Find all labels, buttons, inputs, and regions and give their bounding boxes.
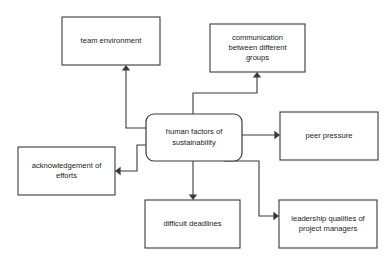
node-communication-between-different-groups[interactable]: communicationbetween differentgroups (210, 24, 305, 72)
node-label-line: team environment (81, 36, 143, 45)
arrow-head-icon-central-to-leadership-qualities (273, 212, 279, 220)
connector-central-to-team-environment (122, 65, 146, 128)
node-difficult-deadlines[interactable]: difficult deadlines (145, 200, 240, 248)
node-label-line: acknowledgement of (32, 161, 103, 170)
node-label-line: leadership qualities of (291, 214, 365, 223)
connector-central-to-acknowledgement (115, 145, 146, 175)
node-label-line: communication (232, 33, 283, 42)
node-label-central: human factors ofsustainability (166, 127, 223, 146)
node-peer-pressure[interactable]: peer pressure (280, 112, 378, 160)
node-label-line: groups (246, 53, 269, 62)
connector-line-central-to-team-environment (126, 70, 146, 128)
node-acknowledgement-of-efforts[interactable]: acknowledgement ofefforts (18, 147, 115, 195)
arrow-head-icon-central-to-difficult-deadlines (189, 194, 197, 200)
connector-line-central-to-acknowledgement (120, 145, 146, 171)
node-label-line: sustainability (172, 138, 216, 147)
node-label-peer-pressure: peer pressure (306, 131, 353, 140)
node-label-line: human factors of (166, 127, 223, 136)
node-label-leadership-qualities-of-project-managers: leadership qualities ofproject managers (291, 214, 365, 233)
node-label-line: efforts (56, 171, 77, 180)
node-layer: team environmentcommunicationbetween dif… (18, 17, 378, 248)
node-label-line: between different (228, 43, 287, 52)
arrow-head-icon-central-to-communication (253, 72, 261, 78)
node-team-environment[interactable]: team environment (62, 17, 160, 65)
arrow-head-icon-central-to-acknowledgement (115, 167, 121, 175)
node-label-line: project managers (299, 224, 358, 233)
node-label-team-environment: team environment (81, 36, 143, 45)
node-label-line: peer pressure (306, 131, 353, 140)
connector-central-to-difficult-deadlines (189, 161, 197, 200)
arrow-head-icon-central-to-team-environment (122, 65, 130, 71)
node-leadership-qualities-of-project-managers[interactable]: leadership qualities ofproject managers (279, 200, 377, 248)
connector-central-to-peer-pressure (242, 131, 280, 139)
connector-line-central-to-communication (193, 77, 257, 114)
node-label-line: difficult deadlines (163, 219, 221, 228)
arrow-head-icon-central-to-peer-pressure (274, 131, 280, 139)
node-central[interactable]: human factors ofsustainability (146, 114, 242, 161)
connector-central-to-communication (193, 72, 261, 114)
diagram-canvas: team environmentcommunicationbetween dif… (0, 0, 390, 262)
concept-map-diagram: team environmentcommunicationbetween dif… (0, 0, 390, 262)
node-label-difficult-deadlines: difficult deadlines (163, 219, 221, 228)
